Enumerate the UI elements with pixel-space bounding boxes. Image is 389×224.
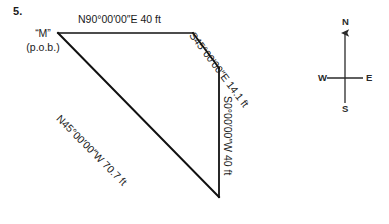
- compass-rose-icon: [0, 0, 389, 224]
- compass-label-north: N: [342, 17, 349, 27]
- compass-label-south: S: [342, 104, 348, 114]
- survey-traverse-figure: 5. “M” (p.o.b.) N90°00′00″E 40 ft S45°00…: [0, 0, 389, 224]
- compass-label-east: E: [366, 73, 372, 83]
- compass-label-west: W: [318, 73, 327, 83]
